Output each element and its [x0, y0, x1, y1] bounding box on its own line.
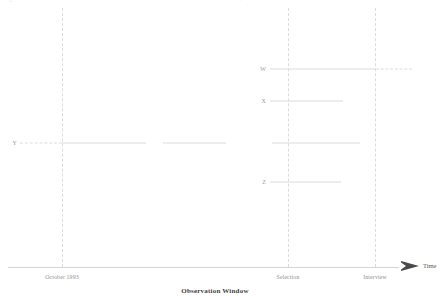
tick-label-interview: Interview [363, 274, 387, 280]
top-fragment-left: C [9, 0, 13, 3]
row-label-z: Z [262, 179, 266, 185]
tick-label-october-1993: October 1993 [45, 274, 79, 280]
timeline-segment-y-2 [163, 143, 226, 144]
gridline-selection [288, 8, 289, 267]
row-label-y: Y [12, 140, 17, 146]
top-fragment-middle: 4 [238, 0, 241, 2]
timeline-segment-y-0 [20, 143, 62, 144]
timeline-segment-y-3 [272, 143, 360, 144]
timeline-segment-z-0 [270, 182, 341, 183]
timeline-segment-w-0 [270, 69, 375, 70]
observation-window-timeline-figure: C 4 WXYZ Time October 1993SelectionInter… [0, 0, 445, 296]
row-label-w: W [260, 66, 266, 72]
row-label-x: X [261, 98, 266, 104]
timeline-segment-y-1 [62, 143, 146, 144]
gridline-interview [375, 8, 376, 267]
figure-caption: Observation Window [0, 287, 430, 295]
tick-label-selection: Selection [277, 274, 300, 280]
timeline-segment-x-0 [270, 101, 343, 102]
right-arrow-notch-icon [399, 261, 406, 271]
time-axis-line [8, 267, 402, 268]
time-axis-label: Time [423, 262, 437, 269]
gridline-october-1993 [62, 8, 63, 267]
timeline-segment-w-1 [376, 69, 412, 70]
